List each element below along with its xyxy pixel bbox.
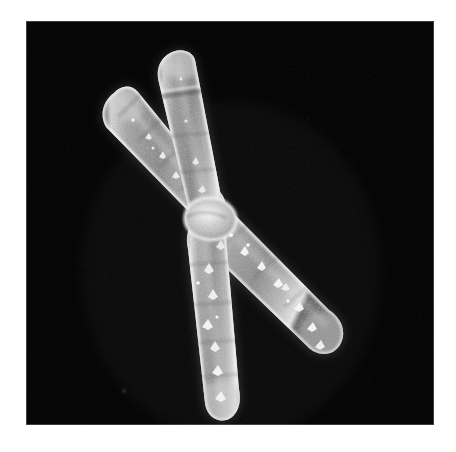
micrograph-frame: [26, 21, 434, 425]
chromosome-micrograph-image: [26, 21, 434, 425]
substrate-scatter: [81, 101, 381, 425]
screenshot-canvas: [0, 0, 456, 452]
